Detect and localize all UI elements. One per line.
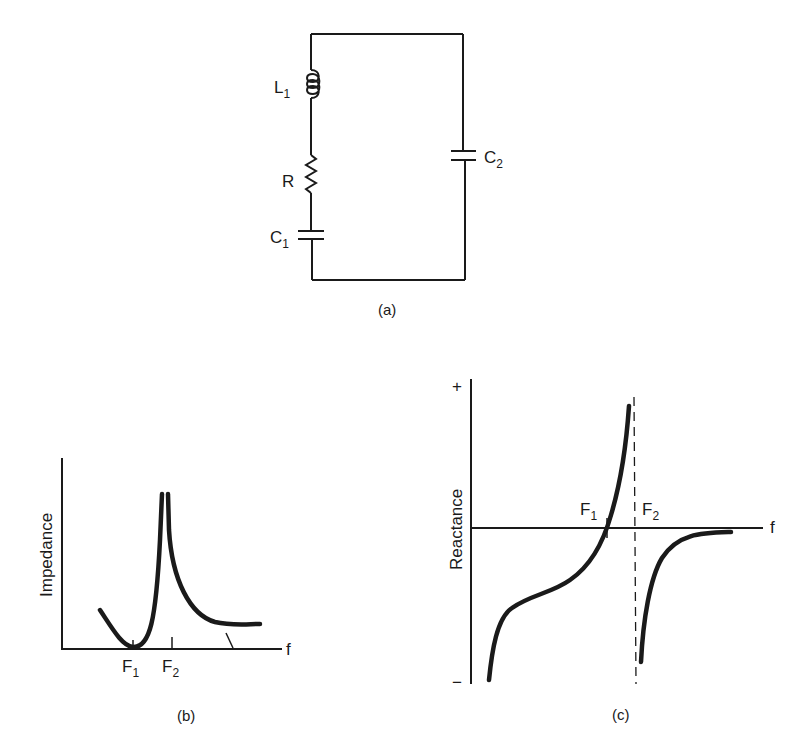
- f2-label: F2: [642, 500, 659, 523]
- f1-label: F1: [122, 657, 139, 680]
- figure-canvas: L1 R C1 C2 (a) f Impedance F1 F2 (b): [0, 0, 798, 749]
- f2-asymptote: [634, 397, 636, 684]
- impedance-plot: f Impedance F1 F2 (b): [37, 458, 291, 724]
- reactance-curve-left: [489, 406, 629, 680]
- capacitor-c2-label: C2: [484, 148, 503, 171]
- plus-label: +: [452, 377, 462, 396]
- panel-c-caption: (c): [612, 706, 630, 723]
- panel-b-caption: (b): [177, 707, 195, 724]
- impedance-curve-right: [168, 494, 260, 625]
- minus-label: −: [452, 673, 462, 692]
- asymptote-mark: [226, 633, 233, 648]
- reactance-plot: f Reactance + − F1 F2 (c): [447, 377, 775, 723]
- panel-a-caption: (a): [378, 301, 396, 318]
- capacitor-c1-icon: [298, 231, 324, 239]
- impedance-curve-left: [100, 494, 162, 647]
- resistor-label: R: [282, 172, 294, 191]
- resistor-icon: [306, 155, 316, 193]
- impedance-y-axis-label: Impedance: [37, 513, 56, 597]
- impedance-x-axis-label: f: [286, 640, 291, 659]
- f2-label: F2: [162, 657, 179, 680]
- reactance-y-axis-label: Reactance: [447, 489, 466, 570]
- reactance-x-axis-label: f: [770, 518, 775, 537]
- circuit-diagram: L1 R C1 C2 (a): [270, 34, 503, 318]
- inductor-icon: [307, 70, 319, 98]
- capacitor-c1-label: C1: [270, 228, 289, 251]
- reactance-curve-right: [641, 532, 731, 662]
- capacitor-c2-icon: [451, 151, 476, 160]
- inductor-label: L1: [274, 78, 290, 101]
- f1-label: F1: [580, 500, 597, 523]
